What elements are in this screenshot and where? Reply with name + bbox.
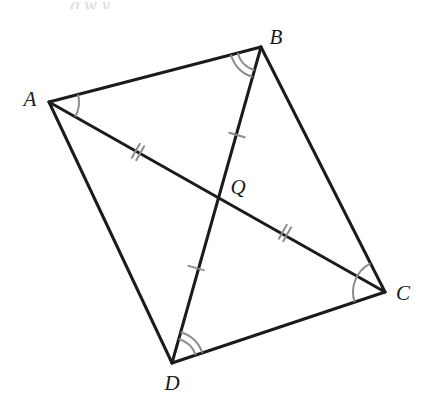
geometry-figure: g w y A B C D Q [0,0,432,414]
geometry-canvas [0,0,432,414]
top-text-artifact: g w y [70,0,110,9]
segment-ab [49,47,261,102]
vertex-label-a: A [24,89,37,110]
angle-arcs [75,53,370,355]
vertex-label-c: C [396,283,410,304]
angle-B-stroke-1 [231,55,253,77]
angle-D-stroke-2 [179,339,196,355]
segment-ac [49,102,385,292]
angle-D-stroke-1 [181,332,203,353]
tick-marks [132,133,291,270]
tick-QD-hash-1 [188,266,203,270]
vertex-label-b: B [270,27,283,48]
segment-cd [172,292,385,363]
vertex-label-d: D [164,373,179,394]
segment-bd [172,47,261,363]
angle-B-stroke-2 [238,53,255,70]
diagonals [49,47,385,363]
angle-A-stroke-1 [75,94,79,116]
segment-da [49,102,172,363]
vertex-label-q: Q [230,177,245,198]
